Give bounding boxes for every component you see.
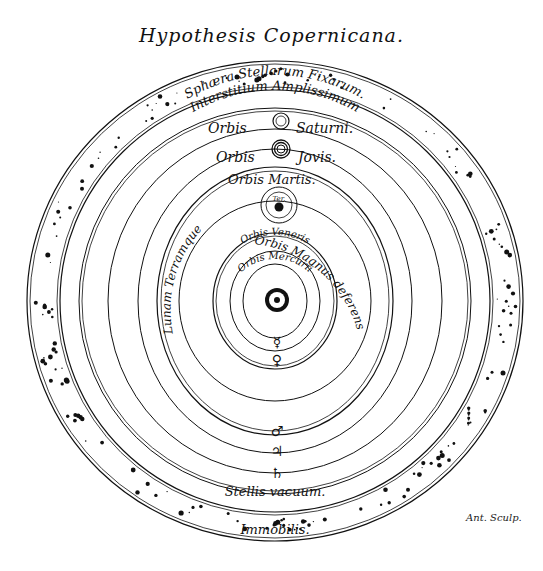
svg-text:Lunam Terramque: Lunam Terramque	[159, 222, 204, 337]
mars-symbol-icon: ♂	[271, 423, 284, 439]
label-jupiter: Jovis.	[295, 149, 336, 165]
label-immobilis: Immobilis.	[239, 522, 309, 537]
mercury-symbol-icon: ☿	[273, 334, 282, 350]
label-saturn: Saturni.	[296, 120, 353, 136]
copernican-system-diagram: Ter. Sphæra Stellarum Fixarum. Interstit…	[0, 0, 543, 571]
svg-text:Orbis Magnus deferens: Orbis Magnus deferens	[254, 233, 368, 331]
label-vacuum: Stellis vacuum.	[225, 484, 326, 499]
jupiter-symbol-icon: ♃	[271, 443, 284, 459]
label-mars: Orbis Martis.	[228, 172, 316, 187]
earth-moon-system: Ter.	[261, 187, 297, 223]
label-saturn-orbis: Orbis	[208, 120, 247, 136]
planet-symbols: ☿ ♀ ♂ ♃ ♄	[271, 334, 284, 481]
venus-symbol-icon: ♀	[272, 352, 282, 368]
earth-icon	[275, 203, 284, 212]
earth-label: Ter.	[272, 195, 285, 203]
sun	[265, 288, 289, 312]
saturn-planet	[273, 113, 289, 129]
label-jupiter-orbis: Orbis	[216, 149, 255, 165]
label-orbis-magnus: Orbis Magnus deferens	[254, 233, 368, 331]
label-lunam-terramque: Lunam Terramque	[159, 222, 204, 337]
saturn-symbol-icon: ♄	[271, 465, 284, 481]
